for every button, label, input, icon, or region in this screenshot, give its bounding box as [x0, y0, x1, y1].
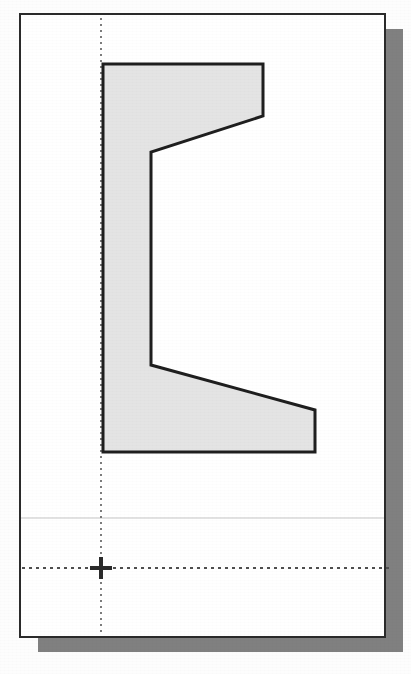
drawing-canvas [0, 0, 411, 674]
technical-drawing-svg [0, 0, 411, 674]
